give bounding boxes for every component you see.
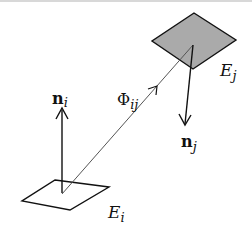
label-nj: nj [181,132,197,154]
form-factor-diagram: ni Φij nj Ej Ei [0,0,252,230]
label-ei: Ei [107,202,125,225]
form-factor-ray [62,45,193,194]
label-ej: Ej [219,60,236,83]
label-phi-ij: Φij [117,90,138,112]
patch-ei [22,180,109,210]
label-ni: ni [52,89,68,110]
